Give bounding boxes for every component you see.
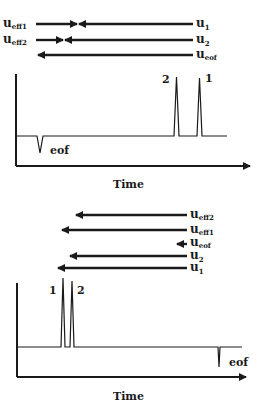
bottom-velocity-arrows [58, 215, 187, 268]
top-eof-label: eof [50, 144, 70, 157]
top-label-u1: u1 [196, 16, 210, 32]
bottom-panel: ueff2 ueff1 ueof u2 u1 1 2 eof Time [17, 207, 249, 403]
top-label-ueff1: ueff1 [3, 16, 27, 31]
electrophoresis-diagram: ueff1 ueff2 u1 u2 ueof 2 1 eof Time ueff… [0, 0, 265, 420]
bottom-label-ueff2: ueff2 [190, 207, 214, 222]
top-electropherogram-trace [16, 77, 227, 153]
top-label-ueff2: ueff2 [3, 32, 27, 47]
top-label-ueof: ueof [196, 47, 218, 62]
top-label-u2: u2 [196, 32, 210, 48]
top-x-axis-title: Time [113, 178, 144, 191]
bottom-peak-label-2: 2 [77, 284, 85, 297]
top-panel: ueff1 ueff2 u1 u2 ueof 2 1 eof Time [3, 16, 250, 191]
top-peak-label-2: 2 [162, 73, 170, 86]
top-velocity-arrows [36, 24, 193, 55]
top-peak-label-1: 1 [205, 72, 213, 85]
bottom-eof-label: eof [229, 356, 249, 369]
bottom-peak-label-1: 1 [49, 284, 57, 297]
bottom-x-axis-title: Time [113, 390, 144, 403]
